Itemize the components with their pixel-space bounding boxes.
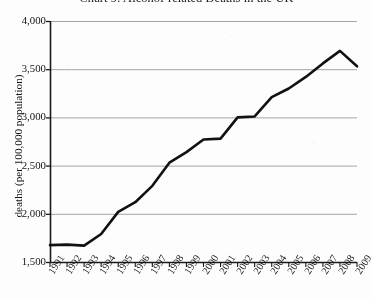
x-tick-label: 1993 bbox=[80, 253, 100, 276]
x-tick-label: 2000 bbox=[200, 253, 220, 276]
x-tick-label: 1997 bbox=[148, 253, 168, 276]
x-tick-label: 2007 bbox=[319, 253, 339, 276]
x-tick-label: 2004 bbox=[268, 253, 288, 276]
x-axis-tick-labels: 1991199219931994199519961997199819992000… bbox=[0, 0, 373, 298]
x-tick-label: 1992 bbox=[63, 253, 83, 276]
x-tick-label: 2001 bbox=[217, 253, 237, 276]
x-tick-label: 1998 bbox=[165, 253, 185, 276]
x-tick-label: 1995 bbox=[114, 253, 134, 276]
x-tick-label: 1996 bbox=[131, 253, 151, 276]
x-tick-label: 1991 bbox=[46, 253, 66, 276]
x-tick-label: 2009 bbox=[353, 253, 373, 276]
x-tick-label: 2003 bbox=[251, 253, 271, 276]
x-tick-label: 2005 bbox=[285, 253, 305, 276]
chart-screenshot: Chart 9: Alcohol-related Deaths in the U… bbox=[0, 0, 373, 298]
x-tick-label: 1999 bbox=[182, 253, 202, 276]
x-tick-label: 1994 bbox=[97, 253, 117, 276]
x-tick-label: 2008 bbox=[336, 253, 356, 276]
x-tick-label: 2006 bbox=[302, 253, 322, 276]
x-tick-label: 2002 bbox=[234, 253, 254, 276]
